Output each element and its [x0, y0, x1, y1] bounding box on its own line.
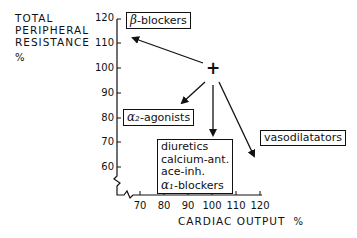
diuretics-group-box: diuretics calcium-ant. ace-inh. α₁-block…	[157, 139, 233, 194]
arrow-to-alpha2-agonists	[182, 82, 205, 103]
alpha1-symbol: α₁	[161, 178, 174, 192]
alpha1-blockers-label: α₁-blockers	[161, 179, 229, 193]
vasodilatators-box: vasodilatators	[260, 130, 346, 146]
arrow-to-beta-blockers	[133, 38, 203, 63]
beta-symbol: β	[130, 13, 137, 27]
beta-blockers-label: -blockers	[137, 14, 187, 27]
origin-plus-marker: +	[206, 58, 220, 78]
alpha2-agonists-label: -agonists	[140, 111, 190, 124]
vasodilatators-label: vasodilatators	[264, 131, 342, 144]
alpha2-agonists-box: α₂-agonists	[123, 109, 194, 126]
diuretics-label: diuretics	[161, 141, 229, 154]
beta-blockers-box: β-blockers	[126, 12, 191, 29]
alpha2-symbol: α₂	[127, 110, 140, 124]
alpha1-blockers-text: -blockers	[174, 179, 224, 192]
